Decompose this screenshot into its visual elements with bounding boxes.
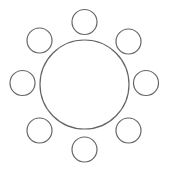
chair-left [10, 71, 35, 96]
chair-top-left [27, 28, 52, 53]
chair-top-right [116, 29, 141, 54]
chair-bottom-left [27, 118, 52, 143]
round-table [40, 40, 129, 129]
chair-bottom-right [116, 118, 141, 143]
seating-diagram [0, 0, 169, 169]
chair-bottom [72, 137, 97, 162]
chair-right [134, 71, 159, 96]
chair-top [72, 10, 97, 35]
